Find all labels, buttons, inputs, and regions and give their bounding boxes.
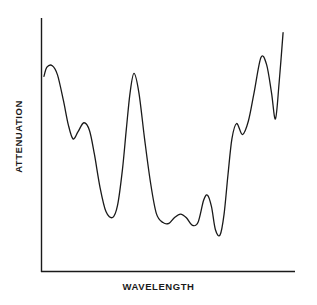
y-axis-label-container: ATTENUATION [0, 0, 36, 272]
axes-group [41, 18, 295, 272]
chart-plot-area [0, 0, 317, 305]
series-line-attenuation-spectrum [44, 33, 283, 236]
chart-figure: ATTENUATION WAVELENGTH [0, 0, 317, 305]
y-axis-label: ATTENUATION [13, 100, 24, 173]
data-series-group [44, 33, 283, 236]
x-axis-label: WAVELENGTH [0, 281, 317, 292]
